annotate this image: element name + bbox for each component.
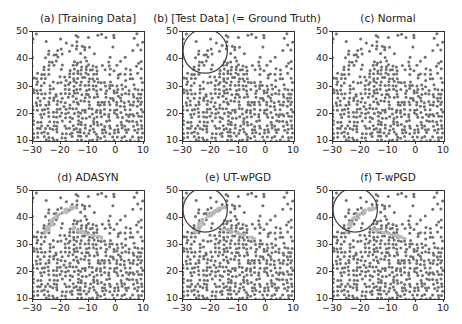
panel-title: (d) ADASYN xyxy=(32,171,144,183)
y-tick-label: 50 xyxy=(310,184,328,195)
x-tick-label: 0 xyxy=(102,302,128,313)
x-tick-label: −20 xyxy=(47,144,73,155)
scatter-points xyxy=(33,191,144,299)
x-tick-label: −30 xyxy=(169,144,195,155)
x-tick-mark xyxy=(60,299,61,302)
x-tick-label: −20 xyxy=(47,302,73,313)
x-tick-label: −10 xyxy=(375,144,401,155)
x-tick-label: −30 xyxy=(319,144,345,155)
y-tick-label: 40 xyxy=(160,52,178,63)
highlight-circle xyxy=(333,191,377,232)
scatter-points xyxy=(33,32,144,141)
y-tick-mark xyxy=(329,86,332,87)
scatter-plot-area xyxy=(32,190,145,300)
y-tick-mark xyxy=(329,217,332,218)
scatter-plot-area xyxy=(332,190,445,300)
y-tick-label: 20 xyxy=(10,265,28,276)
x-tick-mark xyxy=(32,141,33,144)
y-tick-mark xyxy=(329,113,332,114)
scatter-points xyxy=(333,191,444,299)
y-tick-mark xyxy=(179,31,182,32)
x-tick-mark xyxy=(443,299,444,302)
x-tick-label: −10 xyxy=(375,302,401,313)
x-tick-label: −20 xyxy=(197,144,223,155)
y-tick-label: 40 xyxy=(160,211,178,222)
y-tick-label: 30 xyxy=(310,238,328,249)
x-tick-mark xyxy=(210,141,211,144)
y-tick-label: 50 xyxy=(10,25,28,36)
y-tick-label: 20 xyxy=(160,107,178,118)
y-tick-mark xyxy=(329,58,332,59)
y-tick-mark xyxy=(329,31,332,32)
x-tick-mark xyxy=(88,299,89,302)
x-tick-label: −20 xyxy=(197,302,223,313)
y-tick-label: 30 xyxy=(10,238,28,249)
y-tick-label: 50 xyxy=(310,25,328,36)
x-tick-mark xyxy=(60,141,61,144)
panel-title: (c) Normal xyxy=(332,12,444,24)
scatter-points xyxy=(183,32,294,141)
y-tick-mark xyxy=(29,244,32,245)
x-tick-label: 10 xyxy=(280,144,306,155)
x-tick-mark xyxy=(388,299,389,302)
x-tick-mark xyxy=(415,299,416,302)
y-tick-label: 50 xyxy=(10,184,28,195)
y-tick-mark xyxy=(29,113,32,114)
y-tick-label: 40 xyxy=(310,211,328,222)
x-tick-mark xyxy=(332,299,333,302)
x-tick-label: 10 xyxy=(430,144,456,155)
panel-title: (f) T-wPGD xyxy=(332,171,444,183)
x-tick-mark xyxy=(360,141,361,144)
y-tick-label: 40 xyxy=(10,52,28,63)
y-tick-mark xyxy=(329,271,332,272)
y-tick-mark xyxy=(29,217,32,218)
x-tick-mark xyxy=(210,299,211,302)
y-tick-label: 50 xyxy=(160,184,178,195)
y-tick-label: 30 xyxy=(160,80,178,91)
y-tick-mark xyxy=(29,31,32,32)
panel-title: (e) UT-wPGD xyxy=(182,171,294,183)
x-tick-mark xyxy=(443,141,444,144)
y-tick-mark xyxy=(29,58,32,59)
x-tick-mark xyxy=(388,141,389,144)
y-tick-mark xyxy=(179,244,182,245)
x-tick-label: 0 xyxy=(402,144,428,155)
y-tick-mark xyxy=(179,86,182,87)
y-tick-mark xyxy=(29,271,32,272)
x-tick-mark xyxy=(182,141,183,144)
x-tick-mark xyxy=(32,299,33,302)
scatter-plot-area xyxy=(32,31,145,142)
y-tick-label: 50 xyxy=(160,25,178,36)
scatter-plot-area xyxy=(332,31,445,142)
x-tick-mark xyxy=(360,299,361,302)
x-tick-label: 0 xyxy=(252,144,278,155)
scatter-plot-area xyxy=(182,190,295,300)
y-tick-label: 20 xyxy=(10,107,28,118)
y-tick-mark xyxy=(179,113,182,114)
x-tick-label: −30 xyxy=(319,302,345,313)
x-tick-label: −10 xyxy=(75,302,101,313)
x-tick-mark xyxy=(293,141,294,144)
scatter-plot-area xyxy=(182,31,295,142)
x-tick-label: −10 xyxy=(225,302,251,313)
x-tick-label: 0 xyxy=(402,302,428,313)
y-tick-label: 30 xyxy=(160,238,178,249)
x-tick-mark xyxy=(265,299,266,302)
y-tick-mark xyxy=(179,217,182,218)
x-tick-mark xyxy=(265,141,266,144)
y-tick-label: 40 xyxy=(310,52,328,63)
y-tick-label: 40 xyxy=(10,211,28,222)
x-tick-label: −30 xyxy=(19,144,45,155)
x-tick-label: −30 xyxy=(169,302,195,313)
y-tick-mark xyxy=(179,271,182,272)
y-tick-mark xyxy=(329,244,332,245)
x-tick-mark xyxy=(238,141,239,144)
x-tick-mark xyxy=(415,141,416,144)
highlight-circle xyxy=(183,191,227,232)
y-tick-label: 30 xyxy=(310,80,328,91)
x-tick-label: −20 xyxy=(347,302,373,313)
x-tick-label: 10 xyxy=(280,302,306,313)
y-tick-mark xyxy=(29,190,32,191)
x-tick-label: 10 xyxy=(430,302,456,313)
x-tick-mark xyxy=(293,299,294,302)
